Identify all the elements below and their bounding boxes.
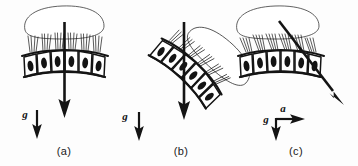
figure-container: g (a)	[0, 0, 358, 166]
gravity-vector-b: g	[121, 110, 144, 141]
panel-caption-b: (b)	[174, 145, 189, 157]
acceleration-vector-c: a	[276, 102, 305, 124]
panel-c: a g (c)	[237, 6, 344, 157]
acceleration-label-c: a	[280, 102, 286, 114]
panel-caption-a: (a)	[57, 145, 72, 157]
gravity-label-c: g	[262, 113, 269, 125]
gravity-vector-c: g	[262, 113, 281, 141]
gravity-vector-a: g	[21, 108, 42, 139]
otolithic-membrane-c	[237, 6, 319, 39]
panel-a: g (a)	[21, 6, 108, 157]
gravity-label-b: g	[121, 110, 128, 122]
panel-caption-c: (c)	[289, 145, 303, 157]
gravity-label-a: g	[21, 108, 28, 120]
otolith-macula-figure: g (a)	[0, 0, 358, 166]
